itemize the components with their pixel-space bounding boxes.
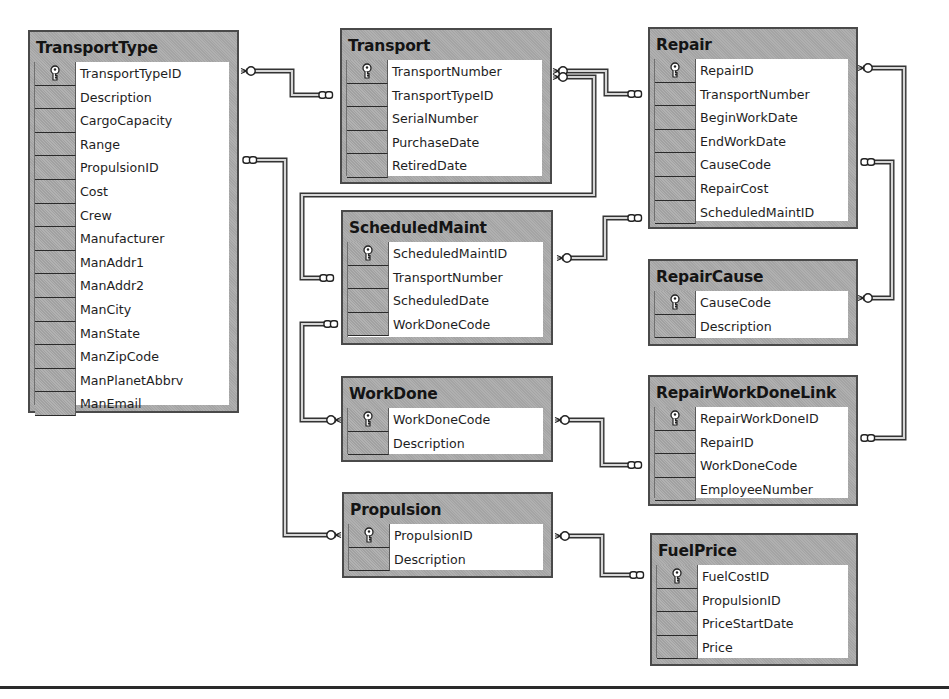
table-repairworkdonelink[interactable]: RepairWorkDoneLink RepairWorkDoneID Repa… bbox=[648, 375, 858, 506]
row-selector[interactable] bbox=[655, 106, 696, 130]
row-selector[interactable] bbox=[655, 177, 696, 201]
column-row[interactable]: Price bbox=[657, 636, 848, 660]
row-selector[interactable] bbox=[35, 204, 76, 228]
column-row[interactable]: ManState bbox=[35, 322, 229, 346]
row-selector[interactable] bbox=[655, 130, 696, 154]
row-selector[interactable] bbox=[348, 266, 389, 290]
column-row[interactable]: PropulsionID bbox=[349, 524, 543, 548]
row-selector[interactable] bbox=[655, 201, 696, 225]
table-fuelprice[interactable]: FuelPrice FuelCostID PropulsionID PriceS… bbox=[650, 533, 858, 666]
column-row[interactable]: CauseCode bbox=[655, 153, 848, 177]
table-scheduledmaint[interactable]: ScheduledMaint ScheduledMaintID Transpor… bbox=[341, 210, 553, 345]
row-selector[interactable] bbox=[349, 524, 390, 548]
row-selector[interactable] bbox=[657, 636, 698, 660]
column-row[interactable]: PriceStartDate bbox=[657, 612, 848, 636]
row-selector[interactable] bbox=[35, 322, 76, 346]
row-selector[interactable] bbox=[655, 431, 696, 455]
row-selector[interactable] bbox=[35, 251, 76, 275]
column-row[interactable]: Range bbox=[35, 133, 229, 157]
row-selector[interactable] bbox=[348, 432, 389, 456]
column-row[interactable]: PropulsionID bbox=[35, 156, 229, 180]
column-name: EndWorkDate bbox=[700, 130, 786, 153]
column-row[interactable]: PurchaseDate bbox=[347, 131, 542, 155]
row-selector[interactable] bbox=[657, 612, 698, 636]
column-row[interactable]: ManAddr1 bbox=[35, 251, 229, 275]
column-row[interactable]: ManZipCode bbox=[35, 345, 229, 369]
column-row[interactable]: EndWorkDate bbox=[655, 130, 848, 154]
row-selector[interactable] bbox=[347, 60, 388, 84]
row-selector[interactable] bbox=[655, 315, 696, 339]
column-row[interactable]: Description bbox=[348, 432, 543, 456]
column-row[interactable]: ScheduledMaintID bbox=[348, 242, 543, 266]
table-workdone[interactable]: WorkDone WorkDoneCode Description bbox=[341, 376, 553, 462]
column-row[interactable]: CauseCode bbox=[655, 291, 848, 315]
column-row[interactable]: ScheduledMaintID bbox=[655, 201, 848, 225]
table-repaircause[interactable]: RepairCause CauseCode Description bbox=[648, 259, 858, 346]
column-row[interactable]: TransportTypeID bbox=[347, 84, 542, 108]
row-selector[interactable] bbox=[35, 369, 76, 393]
row-selector[interactable] bbox=[35, 86, 76, 110]
row-selector[interactable] bbox=[348, 242, 389, 266]
row-selector[interactable] bbox=[35, 156, 76, 180]
column-row[interactable]: RepairID bbox=[655, 59, 848, 83]
column-row[interactable]: TransportNumber bbox=[655, 83, 848, 107]
column-row[interactable]: TransportNumber bbox=[347, 60, 542, 84]
table-transport[interactable]: Transport TransportNumber TransportTypeI… bbox=[340, 28, 552, 184]
row-selector[interactable] bbox=[347, 131, 388, 155]
column-row[interactable]: ManPlanetAbbrv bbox=[35, 369, 229, 393]
row-selector[interactable] bbox=[655, 478, 696, 502]
row-selector[interactable] bbox=[35, 345, 76, 369]
row-selector[interactable] bbox=[348, 289, 389, 313]
row-selector[interactable] bbox=[348, 313, 389, 337]
column-row[interactable]: Cost bbox=[35, 180, 229, 204]
column-row[interactable]: TransportTypeID bbox=[35, 62, 229, 86]
row-selector[interactable] bbox=[655, 407, 696, 431]
row-selector[interactable] bbox=[35, 109, 76, 133]
column-row[interactable]: Description bbox=[349, 548, 543, 572]
column-row[interactable]: TransportNumber bbox=[348, 266, 543, 290]
column-row[interactable]: ManCity bbox=[35, 298, 229, 322]
row-selector[interactable] bbox=[348, 408, 389, 432]
column-row[interactable]: SerialNumber bbox=[347, 107, 542, 131]
column-row[interactable]: CargoCapacity bbox=[35, 109, 229, 133]
column-row[interactable]: RepairCost bbox=[655, 177, 848, 201]
table-transporttype[interactable]: TransportType TransportTypeID Descriptio… bbox=[28, 30, 239, 413]
column-row[interactable]: PropulsionID bbox=[657, 589, 848, 613]
row-selector[interactable] bbox=[655, 454, 696, 478]
row-selector[interactable] bbox=[655, 59, 696, 83]
table-propulsion[interactable]: Propulsion PropulsionID Description bbox=[342, 492, 553, 578]
column-row[interactable]: BeginWorkDate bbox=[655, 106, 848, 130]
column-row[interactable]: Description bbox=[35, 86, 229, 110]
column-row[interactable]: RepairID bbox=[655, 431, 848, 455]
row-selector[interactable] bbox=[655, 291, 696, 315]
row-selector[interactable] bbox=[655, 153, 696, 177]
table-repair[interactable]: Repair RepairID TransportNumber BeginWor… bbox=[648, 27, 858, 229]
row-selector[interactable] bbox=[349, 548, 390, 572]
row-selector[interactable] bbox=[657, 589, 698, 613]
row-selector[interactable] bbox=[35, 298, 76, 322]
column-row[interactable]: RepairWorkDoneID bbox=[655, 407, 848, 431]
column-row[interactable]: ScheduledDate bbox=[348, 289, 543, 313]
row-selector[interactable] bbox=[347, 154, 388, 178]
row-selector[interactable] bbox=[35, 392, 76, 416]
row-selector[interactable] bbox=[655, 83, 696, 107]
row-selector[interactable] bbox=[657, 565, 698, 589]
row-selector[interactable] bbox=[35, 274, 76, 298]
row-selector[interactable] bbox=[347, 84, 388, 108]
row-selector[interactable] bbox=[347, 107, 388, 131]
column-row[interactable]: EmployeeNumber bbox=[655, 478, 848, 502]
column-row[interactable]: ManEmail bbox=[35, 392, 229, 416]
column-row[interactable]: RetiredDate bbox=[347, 154, 542, 178]
row-selector[interactable] bbox=[35, 227, 76, 251]
row-selector[interactable] bbox=[35, 133, 76, 157]
row-selector[interactable] bbox=[35, 62, 76, 86]
column-row[interactable]: WorkDoneCode bbox=[655, 454, 848, 478]
column-row[interactable]: Manufacturer bbox=[35, 227, 229, 251]
column-row[interactable]: WorkDoneCode bbox=[348, 408, 543, 432]
column-row[interactable]: ManAddr2 bbox=[35, 274, 229, 298]
column-row[interactable]: FuelCostID bbox=[657, 565, 848, 589]
row-selector[interactable] bbox=[35, 180, 76, 204]
column-row[interactable]: Description bbox=[655, 315, 848, 339]
column-row[interactable]: Crew bbox=[35, 204, 229, 228]
column-row[interactable]: WorkDoneCode bbox=[348, 313, 543, 337]
